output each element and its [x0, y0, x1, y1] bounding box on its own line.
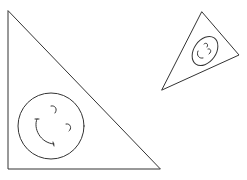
small-triangle [162, 12, 239, 90]
diagram-svg [0, 0, 247, 180]
large-face-eye-top [51, 106, 56, 113]
figure-canvas [0, 0, 247, 180]
small-face-eye-right [208, 49, 211, 54]
small-triangle-group [162, 12, 239, 90]
large-smiley-face [18, 93, 84, 159]
large-face-mouth [36, 119, 54, 144]
large-face-outline [18, 93, 84, 159]
large-triangle-group [8, 11, 160, 169]
large-face-mouth-tick-right [53, 142, 54, 146]
large-face-eye-right [66, 124, 71, 131]
small-face-mouth [197, 51, 203, 58]
large-triangle [8, 11, 160, 169]
small-face-eye-top [204, 43, 208, 47]
